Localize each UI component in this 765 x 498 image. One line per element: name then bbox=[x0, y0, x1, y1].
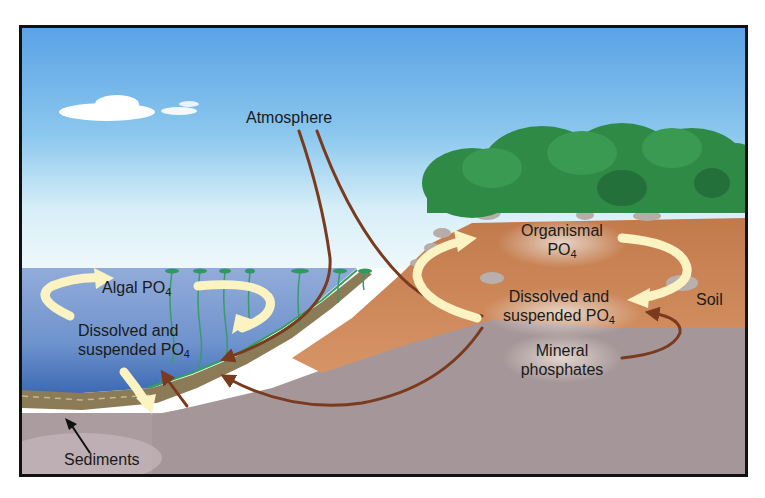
diagram-frame: Atmosphere Algal PO4 Dissolved and suspe… bbox=[19, 25, 748, 477]
mineral-phosphates-label: Mineral phosphates bbox=[507, 341, 617, 379]
atmosphere-text: Atmosphere bbox=[246, 109, 332, 126]
sediments-text: Sediments bbox=[64, 451, 140, 468]
water-dissolved-line2: suspended PO4 bbox=[78, 340, 190, 364]
water-dissolved-text: suspended PO bbox=[78, 341, 184, 358]
algal-subscript: 4 bbox=[165, 286, 171, 298]
mineral-line2: phosphates bbox=[507, 360, 617, 379]
water-dissolved-label: Dissolved and suspended PO4 bbox=[78, 321, 190, 364]
sediments-label: Sediments bbox=[64, 450, 140, 469]
soil-dissolved-label: Dissolved and suspended PO4 bbox=[489, 287, 629, 330]
organismal-line2: PO4 bbox=[507, 240, 617, 264]
soil-dissolved-text: suspended PO bbox=[503, 307, 609, 324]
water-dissolved-subscript: 4 bbox=[184, 348, 190, 360]
algal-po4-label: Algal PO4 bbox=[102, 278, 171, 302]
phosphorus-cycle-scene bbox=[22, 28, 745, 474]
organismal-po4-label: Organismal PO4 bbox=[507, 221, 617, 264]
organismal-text: PO bbox=[547, 241, 570, 258]
soil-text: Soil bbox=[696, 291, 723, 308]
soil-dissolved-line1: Dissolved and bbox=[489, 287, 629, 306]
atmosphere-label: Atmosphere bbox=[246, 108, 332, 127]
soil-dissolved-line2: suspended PO4 bbox=[489, 306, 629, 330]
organismal-line1: Organismal bbox=[507, 221, 617, 240]
organismal-subscript: 4 bbox=[571, 248, 577, 260]
soil-label: Soil bbox=[696, 290, 723, 309]
algal-text: Algal PO bbox=[102, 279, 165, 296]
water-dissolved-line1: Dissolved and bbox=[78, 321, 190, 340]
soil-dissolved-subscript: 4 bbox=[609, 314, 615, 326]
mineral-line1: Mineral bbox=[507, 341, 617, 360]
